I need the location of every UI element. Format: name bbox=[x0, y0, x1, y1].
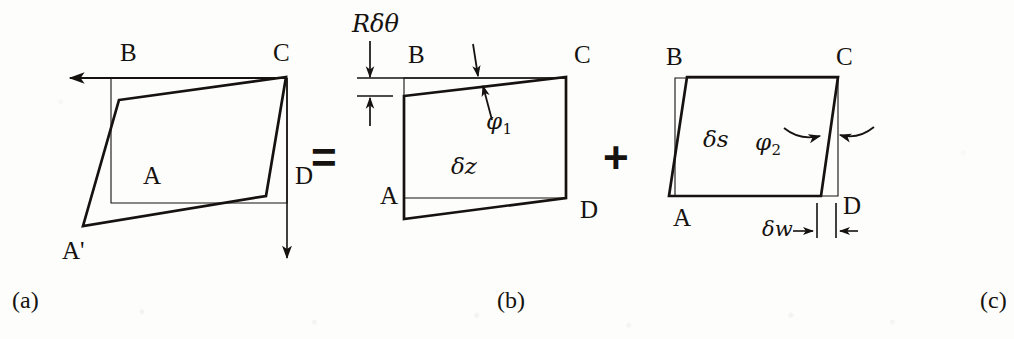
panel-c-label-B: B bbox=[666, 44, 683, 69]
figure-root: = + B C A D A' B C A D Rδθ φ1 δz B C A D… bbox=[0, 0, 1014, 339]
phi-2-glyph: φ bbox=[755, 129, 771, 155]
panel-c-label-delta-w: δw bbox=[762, 219, 793, 240]
caption-b: (b) bbox=[497, 288, 525, 312]
panel-b-label-D: D bbox=[580, 197, 598, 222]
panel-a-deformed-quad bbox=[83, 77, 286, 226]
plus-operator: + bbox=[603, 136, 629, 180]
panel-b-label-R-delta-theta: Rδθ bbox=[352, 12, 399, 36]
panel-a-label-C: C bbox=[273, 40, 290, 65]
phi-1-subscript: 1 bbox=[503, 120, 513, 138]
panel-b-label-C: C bbox=[574, 42, 591, 67]
phi-1-glyph: φ bbox=[486, 108, 502, 134]
panel-a-label-A: A bbox=[143, 163, 161, 188]
panel-c-label-C: C bbox=[836, 44, 853, 69]
panel-b-label-B: B bbox=[408, 42, 425, 67]
panel-c-label-D: D bbox=[843, 193, 861, 218]
panel-b-label-A: A bbox=[380, 183, 398, 208]
equals-operator: = bbox=[311, 136, 337, 180]
phi-2-subscript: 2 bbox=[772, 141, 782, 159]
panel-a-label-D: D bbox=[295, 163, 313, 188]
panel-c-label-delta-s: δs bbox=[703, 128, 729, 151]
panel-a-linework bbox=[70, 77, 287, 258]
panel-c-label-phi-2: φ2 bbox=[755, 131, 781, 158]
panel-a-label-A-prime: A' bbox=[62, 238, 85, 263]
panel-c-label-A: A bbox=[673, 205, 691, 230]
panel-b-rdtheta-dimension bbox=[357, 41, 393, 126]
panel-b-label-phi-1: φ1 bbox=[486, 110, 512, 137]
caption-c: (c) bbox=[980, 288, 1007, 312]
caption-a: (a) bbox=[12, 288, 39, 312]
panel-b-label-delta-z: δz bbox=[451, 155, 477, 178]
panel-a-label-B: B bbox=[120, 40, 137, 65]
